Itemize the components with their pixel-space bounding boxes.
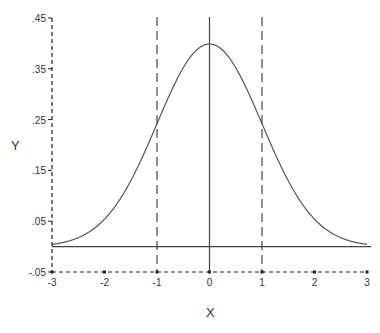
x-tick-label: 3	[364, 277, 370, 288]
y-axis-label: Y	[11, 138, 20, 153]
x-tick-label: -3	[48, 277, 57, 288]
y-tick-label: .05	[32, 216, 46, 227]
y-tick-label: .15	[32, 165, 46, 176]
normal-distribution-chart: .45.35.25.15.05-.05 -3-2-10123 Y X	[0, 0, 380, 333]
reference-lines	[52, 17, 371, 272]
y-tick-label: .25	[32, 115, 46, 126]
x-axis-label: X	[206, 305, 215, 320]
x-axis-ticks: -3-2-10123	[48, 271, 371, 289]
y-tick-label: .35	[32, 64, 46, 75]
y-axis-ticks: .45.35.25.15.05-.05	[29, 13, 52, 278]
y-tick-label: -.05	[29, 267, 47, 278]
x-tick-label: -2	[100, 277, 109, 288]
y-tick-label: .45	[32, 13, 46, 24]
x-tick-label: 1	[259, 277, 265, 288]
x-tick-label: -1	[153, 277, 162, 288]
x-tick-label: 0	[207, 277, 213, 288]
x-tick-label: 2	[312, 277, 318, 288]
